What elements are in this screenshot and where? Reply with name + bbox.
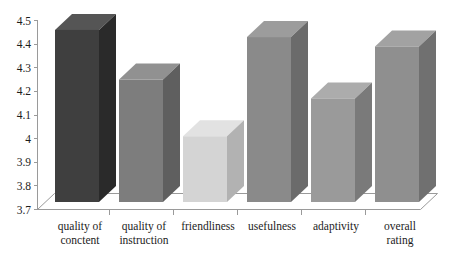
y-tick-label: 3.9 <box>17 156 32 168</box>
bar-front-face <box>247 37 291 202</box>
y-tick-label: 3.7 <box>17 204 32 216</box>
x-tick-label: quality ofconctent <box>58 220 103 246</box>
x-tick-label-line: adaptivity <box>313 220 359 233</box>
x-tick-label-line: quality of <box>58 220 103 233</box>
bar-front-face <box>183 136 227 202</box>
bar-front-face <box>311 98 355 202</box>
y-tick-label: 4.2 <box>17 85 32 97</box>
y-tick-label: 4 <box>25 133 31 145</box>
bar-side-face <box>99 14 116 202</box>
x-tick-label-line: rating <box>387 234 414 247</box>
y-tick-label: 4.5 <box>17 15 32 27</box>
x-tick-label: usefulness <box>248 220 296 232</box>
x-tick-label-line: instruction <box>119 234 168 246</box>
x-tick-label: quality ofinstruction <box>119 220 168 246</box>
x-tick-group <box>109 210 365 215</box>
bar-front-face <box>375 46 419 202</box>
bar-side-face <box>291 21 308 202</box>
x-label-group: quality ofconctentquality ofinstructionf… <box>58 220 416 247</box>
bar-3 <box>183 120 244 202</box>
bars-group <box>55 14 436 202</box>
y-tick-label: 3.8 <box>17 180 32 192</box>
bar-chart: 4.54.44.34.24.143.93.83.7 quality ofconc… <box>0 0 451 261</box>
bar-side-face <box>163 64 180 202</box>
x-tick-label-line: quality of <box>122 220 167 233</box>
x-tick-label: adaptivity <box>313 220 359 233</box>
bar-4 <box>247 21 308 202</box>
y-tick-label: 4.4 <box>17 38 32 50</box>
chart-canvas: 4.54.44.34.24.143.93.83.7 quality ofconc… <box>0 0 451 261</box>
bar-5 <box>311 82 372 202</box>
bar-side-face <box>355 82 372 202</box>
x-tick-label: overallrating <box>384 220 416 247</box>
bar-front-face <box>55 30 99 202</box>
bar-6 <box>375 30 436 202</box>
bar-2 <box>119 64 180 202</box>
bar-side-face <box>419 30 436 202</box>
x-tick-label-line: overall <box>384 220 416 232</box>
x-tick-label-line: friendliness <box>181 220 235 232</box>
x-tick-label-line: conctent <box>61 234 101 246</box>
bar-1 <box>55 14 116 202</box>
y-tick-label: 4.3 <box>17 62 32 74</box>
y-tick-group: 4.54.44.34.24.143.93.83.7 <box>17 15 38 216</box>
x-tick-label-line: usefulness <box>248 220 296 232</box>
y-tick-label: 4.1 <box>17 109 32 121</box>
bar-front-face <box>119 80 163 202</box>
x-tick-label: friendliness <box>181 220 235 232</box>
